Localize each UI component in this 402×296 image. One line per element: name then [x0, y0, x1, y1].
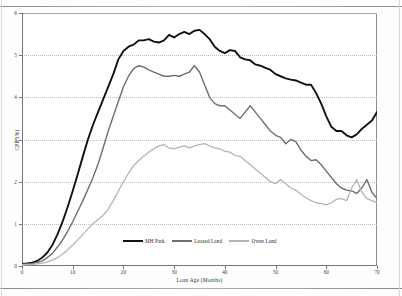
legend-label: Leased Land	[194, 238, 222, 244]
page-edge-left	[1, 0, 2, 296]
x-tick-label: 0	[21, 269, 24, 275]
series-line-mh-park	[22, 30, 377, 264]
page-edge-right	[399, 0, 400, 296]
x-tick-label: 40	[222, 269, 227, 275]
y-tick-label: 0	[14, 263, 17, 269]
x-tick-label: 10	[70, 269, 75, 275]
x-tick-label: 60	[324, 269, 329, 275]
x-axis-label: Loan Age (Months)	[177, 277, 223, 283]
series-line-owns-land	[22, 144, 377, 265]
legend-item-mh-park: MH Park	[122, 238, 164, 244]
page-rule-bottom	[0, 288, 402, 289]
x-tick-label: 30	[172, 269, 177, 275]
scanned-page: 0123456 010203040506070 CPR (%) Loan Age…	[0, 0, 402, 296]
y-tick-label: 6	[14, 10, 17, 16]
legend-label: Owns Land	[252, 238, 277, 244]
chart-legend: MH ParkLeased LandOwns Land	[120, 237, 278, 245]
legend-swatch	[172, 240, 192, 242]
cpr-line-chart: 0123456 010203040506070 CPR (%) Loan Age…	[22, 13, 377, 266]
legend-label: MH Park	[145, 238, 165, 244]
x-tick-label: 50	[273, 269, 278, 275]
x-tick-label: 70	[374, 269, 379, 275]
legend-swatch	[122, 240, 142, 243]
y-axis-label: CPR (%)	[14, 129, 20, 150]
y-tick-label: 1	[14, 221, 17, 227]
y-tick-label: 2	[14, 179, 17, 185]
y-tick-label: 4	[14, 94, 17, 100]
page-rule-top	[0, 6, 402, 7]
legend-item-leased-land: Leased Land	[172, 238, 222, 244]
x-tick-label: 20	[121, 269, 126, 275]
series-line-leased-land	[22, 66, 377, 265]
y-tick-label: 5	[14, 52, 17, 58]
legend-swatch	[229, 240, 249, 242]
series-paths	[22, 13, 377, 266]
legend-item-owns-land: Owns Land	[229, 238, 276, 244]
